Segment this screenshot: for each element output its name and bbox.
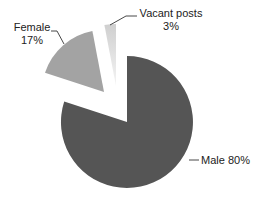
pie-slice-female [45,31,104,92]
label-vacant-pct: 3% [138,20,204,33]
label-vacant-name: Vacant posts [138,7,204,20]
pie-slice-vacant-posts [104,24,116,86]
label-female-name: Female [12,21,52,34]
label-vacant-posts: Vacant posts 3% [138,7,204,33]
label-female-pct: 17% [12,34,52,47]
label-male: Male 80% [201,154,250,167]
label-female: Female 17% [12,21,52,47]
leader-line-vacant [110,16,137,25]
leader-line-female [51,31,64,44]
